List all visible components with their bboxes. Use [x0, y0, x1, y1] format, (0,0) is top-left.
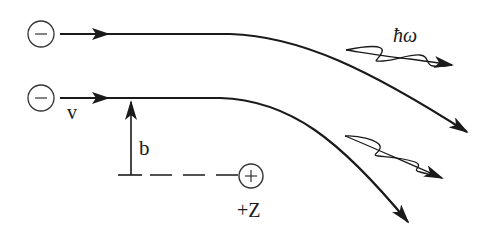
trajectory-bottom: [60, 92, 408, 222]
photon-wave-top: [346, 47, 452, 67]
bremsstrahlung-diagram: v b +Z ħω: [0, 0, 494, 234]
nucleus: [239, 164, 263, 188]
photon-wave-bottom: [345, 136, 442, 178]
electron-bottom: [28, 85, 54, 111]
photon-energy-label: ħω: [393, 24, 417, 46]
nucleus-charge-label: +Z: [237, 199, 261, 221]
electron-top: [28, 21, 54, 47]
velocity-label: v: [67, 101, 77, 123]
impact-parameter-label: b: [139, 136, 150, 160]
